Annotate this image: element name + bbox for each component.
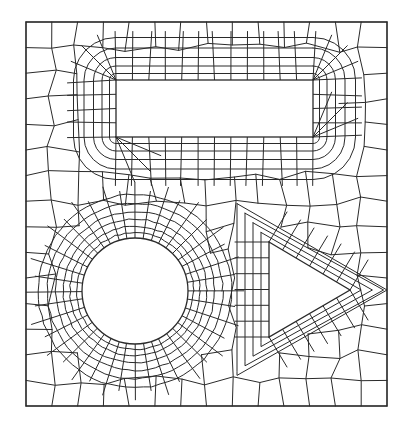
- triangular-hole: [269, 242, 350, 337]
- mesh-edge: [337, 298, 355, 328]
- mesh-edge: [68, 137, 117, 138]
- mesh-edge: [187, 275, 234, 283]
- mesh-edge: [47, 22, 57, 406]
- mesh-edge: [230, 137, 231, 186]
- mesh-edge: [165, 137, 166, 186]
- mesh-edge: [339, 99, 387, 104]
- mesh-edge: [149, 32, 152, 81]
- mesh-edge: [35, 276, 82, 283]
- mesh-edge: [313, 46, 347, 80]
- mesh-edge: [323, 244, 341, 274]
- mesh-edge: [212, 32, 214, 81]
- mesh-edge: [143, 191, 150, 238]
- mesh-edge: [258, 22, 260, 44]
- rectangular-hole: [116, 80, 313, 137]
- mesh-edge: [313, 78, 362, 80]
- mesh-edge: [313, 107, 362, 108]
- mesh-diagram: [0, 0, 402, 433]
- mesh-edge: [35, 299, 82, 306]
- mesh-edge: [187, 299, 234, 306]
- mesh-edge: [167, 334, 200, 379]
- mesh-edge: [173, 220, 207, 254]
- mesh-edge: [115, 32, 116, 81]
- mesh-edge: [26, 252, 49, 254]
- mesh-edge: [297, 137, 298, 186]
- mesh-edge: [280, 137, 282, 186]
- mesh-edge: [74, 22, 80, 226]
- mesh-edge: [68, 109, 117, 111]
- mesh-edge: [284, 22, 285, 48]
- mesh-edge: [68, 122, 117, 123]
- mesh-edge: [269, 337, 287, 367]
- mesh-edge: [68, 80, 117, 83]
- mesh-edge: [198, 32, 199, 81]
- mesh-edge: [364, 73, 387, 75]
- mesh-edge: [246, 137, 247, 186]
- mesh-edge: [256, 174, 258, 203]
- mesh-edge: [102, 172, 103, 201]
- mesh-edge: [313, 32, 316, 81]
- mesh-edge: [158, 339, 179, 382]
- mesh-edge: [179, 22, 181, 50]
- mesh-edge: [331, 174, 340, 255]
- mesh-edge: [228, 177, 236, 406]
- mesh-edge: [294, 32, 296, 81]
- mesh-edge: [313, 135, 362, 137]
- mesh-edge: [269, 212, 287, 242]
- mesh-edge: [308, 325, 387, 334]
- mesh-edge: [124, 379, 129, 407]
- mesh-edge: [115, 137, 116, 186]
- mesh-edge: [144, 343, 152, 390]
- mesh-edge: [365, 304, 388, 306]
- mesh-edge: [262, 137, 263, 186]
- mesh-edge: [63, 328, 97, 362]
- mesh-edge: [202, 350, 232, 355]
- mesh-edge: [103, 22, 104, 48]
- mesh-edge: [278, 32, 280, 81]
- mesh-edge: [77, 353, 81, 406]
- mesh-edge: [26, 292, 82, 293]
- mesh-edge: [155, 376, 156, 406]
- mesh-edge: [335, 22, 339, 52]
- mesh-edge: [125, 22, 129, 51]
- holes: [82, 80, 350, 344]
- mesh-edge: [313, 94, 362, 96]
- mesh-edge: [207, 22, 209, 43]
- mesh-edge: [306, 334, 310, 406]
- mesh-edge: [181, 379, 182, 406]
- mesh-edge: [331, 330, 340, 406]
- mesh-edge: [202, 355, 207, 406]
- mesh-edge: [155, 22, 156, 47]
- mesh-edge: [26, 147, 80, 153]
- mesh-edge: [182, 32, 184, 81]
- mesh-edge: [280, 179, 287, 227]
- mesh-edge: [306, 22, 309, 43]
- mesh-edge: [365, 122, 387, 124]
- mesh-edge: [26, 120, 78, 126]
- mesh-edge: [26, 70, 77, 74]
- mesh-edge: [116, 137, 150, 171]
- mesh-edge: [82, 46, 116, 80]
- circular-hole: [82, 238, 188, 344]
- mesh-edge: [337, 252, 355, 282]
- mesh-edge: [103, 385, 104, 407]
- mesh-edge: [364, 146, 387, 150]
- mesh-edge: [258, 383, 260, 407]
- mesh-svg: [0, 0, 402, 433]
- mesh-edge: [357, 22, 366, 406]
